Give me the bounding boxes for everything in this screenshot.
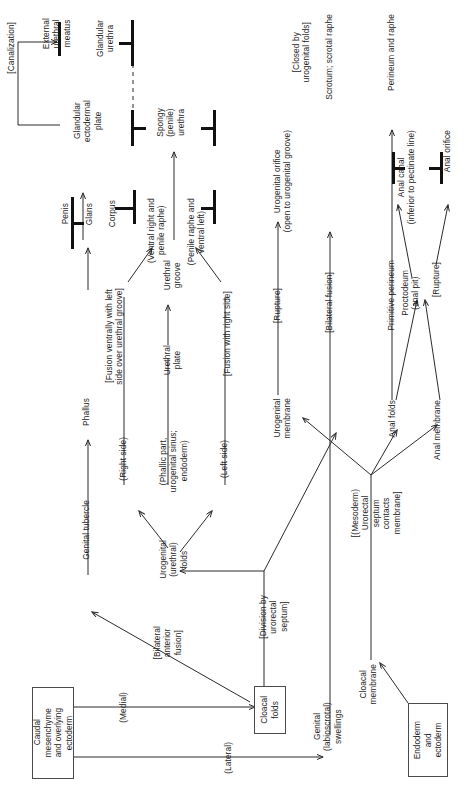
- node-label-genital-tubercle: Genital tubercle: [81, 500, 91, 560]
- edge-label-bilateral-fusion: [Bilateral fusion]: [324, 272, 334, 333]
- node-label-glans: Glans: [84, 203, 94, 225]
- edge-label-medial: (Medial): [118, 692, 128, 723]
- corpus-bracket-vertical: [133, 190, 136, 224]
- node-label-urogenital-membrane: Urogenital membrane: [272, 398, 293, 438]
- connector-overlay: [0, 0, 472, 789]
- node-label-penis: Penis: [60, 203, 70, 224]
- node-label-anal-canal: Anal canal (inferior to pectinate line): [396, 130, 417, 224]
- penis-bracket-arm: [71, 222, 84, 225]
- node-label-perineum-raphe: Perineum and raphe: [386, 14, 396, 91]
- node-box-cloacal-folds[interactable]: Cloacal folds: [254, 686, 286, 734]
- spongy-urethra-bracket-left-arm: [133, 127, 146, 130]
- edge-label-fusion-ventrally-left: [Fusion ventrally with left side over ur…: [104, 288, 125, 385]
- anal-orifice-bracket-arm: [429, 167, 440, 170]
- node-label-urogenital-folds: Urogenital (urethral) folds: [158, 540, 189, 579]
- node-label-phallus: Phallus: [81, 398, 91, 426]
- glandular-urethra-bracket-arm: [119, 42, 132, 45]
- edge-label-bilateral-anterior-fusion: [Bilateral anterior fusion]: [152, 626, 183, 659]
- node-label-right-side: (Right side): [118, 437, 128, 481]
- flowchart-canvas: Caudal mesenchyme and overlying ectoderm…: [0, 0, 472, 789]
- edge-label-closed-by-urogenital-folds: [Closed by urogenital folds]: [291, 22, 312, 82]
- edge-label-rupture-ug: [Rupture]: [272, 288, 282, 323]
- node-label-glandular-ectodermal-plate: Glandular ectodermal plate: [72, 100, 103, 142]
- node-label-phallic-part: (Phallic part, urogenital sinus; endoder…: [158, 430, 189, 492]
- node-label-glandular-urethra: Glandular urethra: [95, 20, 116, 57]
- node-label-anal-orifice: Anal orifice: [442, 130, 452, 172]
- node-label-urethral-plate: Urethral plate: [162, 345, 183, 375]
- edge-label-canalization: [Canalization]: [6, 22, 16, 74]
- node-label-urogenital-orifice: Urogenital orifice (open to urogenital g…: [272, 130, 293, 232]
- node-label-ventral-right: (Ventral right and penile raphe): [146, 198, 167, 263]
- node-label-anal-membrane: Anal membrane: [432, 400, 442, 460]
- node-label-corpus: Corpus: [107, 200, 117, 227]
- node-label-left-side: (Left side): [219, 440, 229, 478]
- node-label-primitive-perineum: Primitive perineum: [386, 260, 396, 331]
- node-label-genital-swellings: Genital (labioscrotal) swellings: [312, 702, 343, 751]
- node-box-caudal-mesenchyme[interactable]: Caudal mesenchyme and overlying ectoderm: [32, 687, 74, 779]
- node-label-external-urethral-meatus: External urethral meatus: [41, 18, 72, 49]
- cloacal-folds-label: Cloacal folds: [259, 696, 280, 724]
- node-label-proctodeum: Proctodeum (anal pit): [400, 270, 421, 316]
- node-label-anal-folds: Anal folds: [387, 400, 397, 437]
- edge-label-division-by-urorectal-septum: [Division by urorectal septum]: [258, 595, 289, 639]
- node-label-scrotum: Scrotum; scrotal raphe: [324, 14, 334, 100]
- endoderm-ectoderm-label: Endoderm and ectoderm: [412, 721, 444, 759]
- node-label-spongy-urethra: Spongy (penile) urethra: [155, 108, 186, 137]
- edge-label-mesoderm-urorectal-septum: [(Mesoderm) Urorectal septum contacts me…: [350, 489, 402, 537]
- node-box-endoderm-ectoderm[interactable]: Endoderm and ectoderm: [408, 703, 448, 777]
- corpus-bracket-arm: [115, 207, 135, 210]
- edge-label-rupture-anal: [Rupture]: [431, 262, 441, 297]
- edge-label-lateral: (Lateral): [223, 742, 233, 774]
- caudal-mesenchyme-label: Caudal mesenchyme and overlying ectoderm: [32, 708, 74, 757]
- node-label-penile-raphe: (Penile raphe and ventral left): [186, 198, 207, 265]
- edge-label-fusion-with-right-side: [Fusion with right side]: [222, 291, 232, 376]
- node-label-cloacal-membrane: Cloacal membrane: [358, 664, 379, 704]
- node-label-urethral-groove: Urethral groove: [162, 260, 183, 290]
- spongy-urethra-bracket-right-arm: [201, 127, 214, 130]
